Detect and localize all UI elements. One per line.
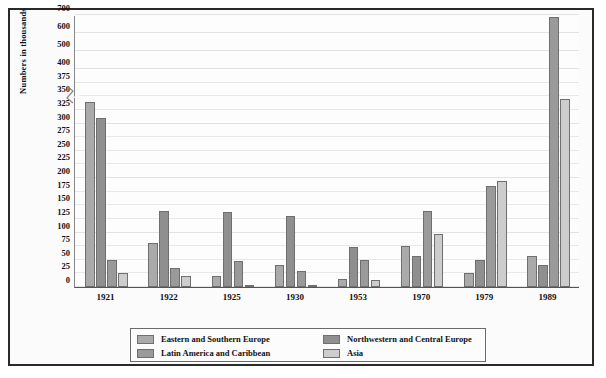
bar[interactable] <box>371 280 381 287</box>
bar[interactable] <box>423 211 433 287</box>
bar[interactable] <box>538 265 548 287</box>
bar-group-1922 <box>148 16 191 287</box>
bar[interactable] <box>170 268 180 287</box>
y-tick-label: 50 <box>62 249 71 257</box>
bar[interactable] <box>286 216 296 287</box>
plot-area <box>74 16 579 288</box>
bar-group-1921 <box>85 16 128 287</box>
bar[interactable] <box>475 260 485 287</box>
x-tick-label: 1930 <box>263 292 326 302</box>
x-tick-label: 1921 <box>74 292 137 302</box>
legend-row: Latin America and Caribbean Asia <box>137 346 479 360</box>
legend-item-eastern-southern-europe[interactable]: Eastern and Southern Europe <box>137 334 323 344</box>
y-tick-label: 0 <box>66 276 70 284</box>
chart-frame: Numbers in thousands 0255075100125150175… <box>8 8 594 366</box>
x-tick-label: 1953 <box>327 292 390 302</box>
bar-group-1930 <box>275 16 318 287</box>
bar[interactable] <box>527 256 537 287</box>
y-axis-title: Numbers in thousands <box>18 0 28 111</box>
bar-group-1925 <box>212 16 255 287</box>
x-tick-label: 1925 <box>200 292 263 302</box>
bar-group-1953 <box>338 16 381 287</box>
bar[interactable] <box>308 285 318 287</box>
legend-swatch-icon <box>323 335 340 344</box>
bar[interactable] <box>275 265 285 287</box>
bar-group-1989 <box>527 16 570 287</box>
axis-break-icon <box>66 82 84 106</box>
y-tick-label: 150 <box>57 194 70 202</box>
bar[interactable] <box>223 212 233 287</box>
legend-label: Latin America and Caribbean <box>161 348 270 358</box>
y-tick-label: 275 <box>57 126 70 134</box>
legend-item-latin-america-caribbean[interactable]: Latin America and Caribbean <box>137 348 323 358</box>
bar[interactable] <box>148 243 158 287</box>
bar[interactable] <box>497 181 507 287</box>
bar[interactable] <box>338 279 348 287</box>
bar[interactable] <box>159 211 169 287</box>
bar[interactable] <box>549 17 559 287</box>
bar[interactable] <box>85 102 95 287</box>
bar-group-1970 <box>401 16 444 287</box>
legend-label: Asia <box>347 348 363 358</box>
y-tick-label: 700 <box>57 4 70 12</box>
bar[interactable] <box>401 246 411 287</box>
bar[interactable] <box>107 260 117 287</box>
y-tick-label: 500 <box>57 40 70 48</box>
bar[interactable] <box>96 118 106 287</box>
gridline <box>75 14 579 15</box>
bar[interactable] <box>486 186 496 287</box>
x-tick-label: 1989 <box>516 292 579 302</box>
bar[interactable] <box>234 261 244 287</box>
y-tick-label: 375 <box>57 72 70 80</box>
legend-swatch-icon <box>137 349 154 358</box>
x-tick-label: 1979 <box>453 292 516 302</box>
y-tick-label: 600 <box>57 22 70 30</box>
y-axis-tick-labels: 0255075100125150175200225250275300325350… <box>36 16 70 288</box>
bar[interactable] <box>297 271 307 287</box>
y-tick-label: 200 <box>57 167 70 175</box>
bar-group-1979 <box>464 16 507 287</box>
legend-swatch-icon <box>323 349 340 358</box>
bar[interactable] <box>434 234 444 287</box>
legend-row: Eastern and Southern Europe Northwestern… <box>137 332 479 346</box>
legend-swatch-icon <box>137 335 154 344</box>
bar[interactable] <box>118 273 128 287</box>
y-tick-label: 100 <box>57 222 70 230</box>
bar-chart: Numbers in thousands 0255075100125150175… <box>22 16 582 316</box>
y-tick-label: 225 <box>57 153 70 161</box>
bar[interactable] <box>349 247 359 287</box>
x-tick-label: 1970 <box>390 292 453 302</box>
y-tick-label: 400 <box>57 58 70 66</box>
bar[interactable] <box>560 99 570 287</box>
y-tick-label: 125 <box>57 208 70 216</box>
bar[interactable] <box>245 285 255 287</box>
legend-label: Eastern and Southern Europe <box>161 334 270 344</box>
bar[interactable] <box>181 276 191 287</box>
y-tick-label: 175 <box>57 181 70 189</box>
bar[interactable] <box>212 276 222 287</box>
bar[interactable] <box>464 273 474 287</box>
bar[interactable] <box>412 256 422 287</box>
y-tick-label: 75 <box>62 235 71 243</box>
legend-label: Northwestern and Central Europe <box>347 334 472 344</box>
y-tick-label: 300 <box>57 113 70 121</box>
x-tick-label: 1922 <box>137 292 200 302</box>
legend-item-northwestern-central-europe[interactable]: Northwestern and Central Europe <box>323 334 472 344</box>
bar[interactable] <box>360 260 370 287</box>
y-tick-label: 250 <box>57 140 70 148</box>
legend: Eastern and Southern Europe Northwestern… <box>130 328 486 362</box>
legend-item-asia[interactable]: Asia <box>323 348 363 358</box>
y-tick-label: 25 <box>62 262 71 270</box>
